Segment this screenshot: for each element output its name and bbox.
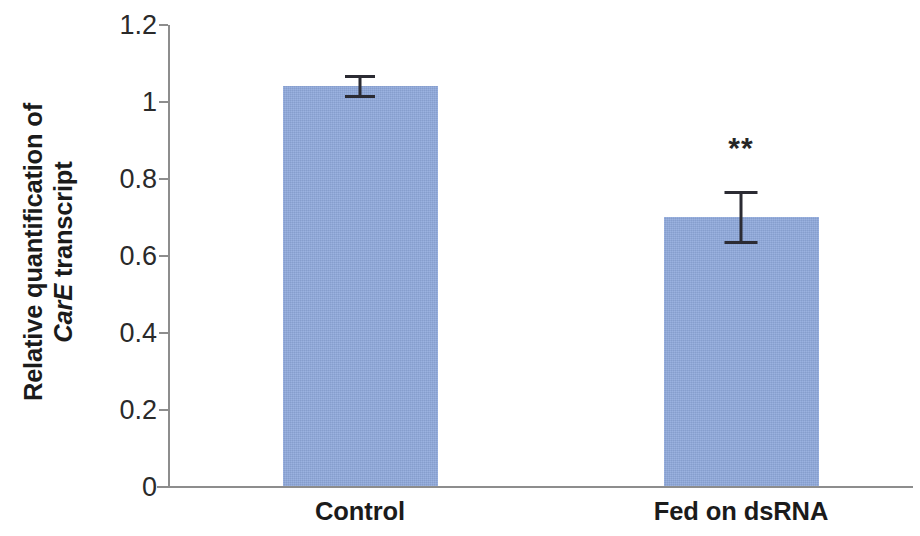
y-axis-tick-label: 1.2: [119, 10, 157, 41]
y-axis-tick-label: 0: [142, 472, 157, 503]
y-axis-tick: [159, 101, 168, 103]
y-axis-tick-label: 0.2: [119, 395, 157, 426]
y-axis-line: [168, 25, 170, 487]
x-axis-label-fed-on-dsrna: Fed on dsRNA: [654, 497, 828, 526]
bar-fed-on-dsrna: [664, 217, 819, 487]
y-axis-title-line-2: CarE transcript: [48, 104, 78, 402]
y-axis-tick: [159, 409, 168, 411]
y-axis-tick: [159, 24, 168, 26]
bar-control: [283, 86, 438, 486]
y-axis-tick: [159, 332, 168, 334]
y-axis-tick: [159, 255, 168, 257]
y-axis-tick: [159, 178, 168, 180]
error-bar-cap-top: [725, 191, 758, 194]
x-axis-line: [168, 486, 913, 488]
y-axis-title-gene: CarE: [49, 284, 77, 343]
plot-area: 00.20.40.60.811.2 **: [168, 25, 913, 487]
y-axis-tick-label: 0.6: [119, 241, 157, 272]
error-bar-cap-top: [345, 75, 375, 78]
y-axis-tick-label: 0.4: [119, 318, 157, 349]
significance-marker: **: [728, 133, 753, 163]
y-axis-tick-label: 1: [142, 87, 157, 118]
x-axis-label-control: Control: [315, 497, 405, 526]
y-axis-title: Relative quantification of CarE transcri…: [0, 0, 96, 505]
y-axis-title-line-1: Relative quantification of: [18, 104, 48, 402]
y-axis-tick: [157, 486, 170, 488]
y-axis-tick-label: 0.8: [119, 164, 157, 195]
y-axis-title-suffix: transcript: [49, 162, 77, 285]
bar-chart-figure: Relative quantification of CarE transcri…: [0, 0, 920, 536]
